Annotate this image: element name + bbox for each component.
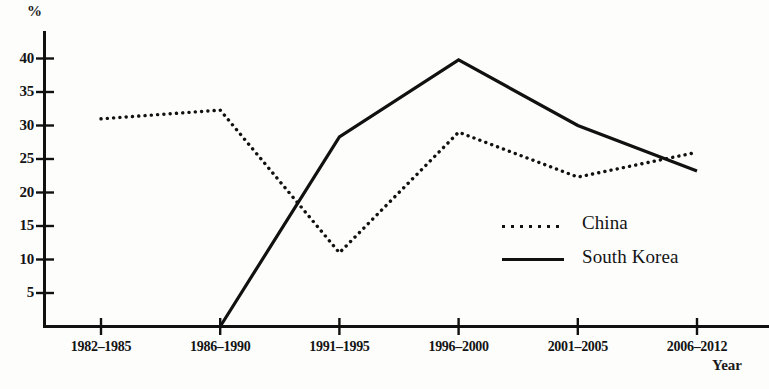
x-axis-tick-label: 1991–1995 — [279, 339, 399, 355]
axis-lines — [43, 31, 769, 327]
y-axis-tick-label: 30 — [0, 117, 34, 134]
x-axis-tick-label: 1982–1985 — [41, 339, 161, 355]
y-axis-tick-label: 5 — [0, 284, 34, 301]
y-axis-tick-label: 10 — [0, 251, 34, 268]
x-axis-tick-label: 1996–2000 — [399, 339, 519, 355]
chart-plot-area — [0, 0, 769, 389]
y-axis-tick-label: 35 — [0, 83, 34, 100]
legend-label-china: China — [582, 212, 628, 234]
y-axis-tick-label: 20 — [0, 184, 34, 201]
data-series-group — [101, 60, 697, 327]
series-line-south-korea — [220, 60, 697, 327]
y-axis-tick-label: 25 — [0, 150, 34, 167]
x-axis-tick-label: 2001–2005 — [518, 339, 638, 355]
x-axis-tick-label: 2006–2012 — [637, 339, 757, 355]
legend-label-south-korea: South Korea — [582, 246, 679, 268]
y-axis-tick-label: 40 — [0, 50, 34, 67]
legend-swatch-south-korea — [502, 258, 564, 261]
y-axis-tick-label: 15 — [0, 217, 34, 234]
x-axis-tick-label: 1986–1990 — [160, 339, 280, 355]
line-chart: % Year 510152025303540 1982–19851986–199… — [0, 0, 769, 389]
legend-swatch-china — [502, 225, 564, 228]
